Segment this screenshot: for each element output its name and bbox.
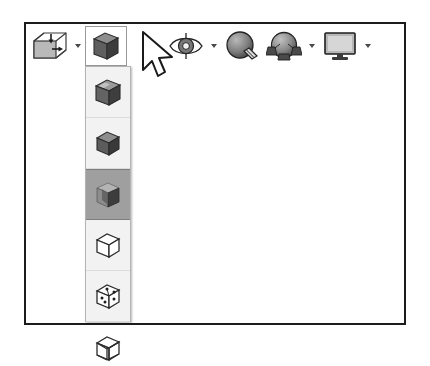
tool-group-visibility (165, 25, 221, 67)
wireframe-cube-icon (92, 332, 124, 364)
object-bounds-chevron-down-icon[interactable] (71, 26, 85, 66)
toolbar-spacer (127, 26, 165, 66)
flyout-item-flat[interactable] (86, 220, 130, 271)
object-bounds-button[interactable] (29, 26, 71, 66)
shaded-cube-highlights-icon (91, 75, 125, 109)
flyout-item-wireframe[interactable] (86, 322, 130, 366)
cube-with-arrows-icon (32, 30, 68, 62)
faceted-cube-icon (92, 179, 124, 211)
viewport-shading-toolbar (26, 24, 404, 68)
tool-group-material-paint (221, 25, 263, 67)
outline-cube-icon (92, 229, 124, 261)
dotted-vertex-cube-icon (92, 280, 124, 312)
lighting-button[interactable] (263, 26, 305, 66)
visibility-chevron-down-icon[interactable] (207, 26, 221, 66)
flyout-item-smooth-highlights[interactable] (86, 67, 130, 118)
eye-icon (167, 32, 205, 60)
sphere-with-brush-icon (224, 29, 260, 63)
flyout-item-hidden-line[interactable] (86, 271, 130, 322)
tool-group-lighting (263, 25, 319, 67)
tool-group-display-monitor (319, 25, 375, 67)
tool-group-shading-mode (85, 25, 127, 67)
flyout-item-smooth[interactable] (86, 118, 130, 169)
display-monitor-chevron-down-icon[interactable] (361, 26, 375, 66)
sphere-with-lights-icon (266, 29, 302, 63)
shading-mode-button[interactable] (85, 26, 127, 66)
shaded-cube-icon (89, 29, 123, 63)
visibility-button[interactable] (165, 26, 207, 66)
tool-group-object-bounds (29, 25, 85, 67)
material-paint-button[interactable] (221, 26, 263, 66)
application-frame (24, 22, 406, 325)
lighting-chevron-down-icon[interactable] (305, 26, 319, 66)
shading-mode-flyout[interactable] (85, 66, 131, 322)
shaded-cube-icon (92, 127, 124, 159)
flyout-item-facets[interactable] (86, 169, 130, 220)
monitor-icon (322, 30, 358, 62)
display-monitor-button[interactable] (319, 26, 361, 66)
